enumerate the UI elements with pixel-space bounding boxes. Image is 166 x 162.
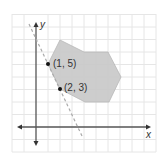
x-axis-left-arrow-icon (17, 125, 22, 130)
coordinate-plane-figure: (1, 5) (2, 3) y x (0, 0, 166, 162)
point-1-5-label: (1, 5) (53, 58, 76, 69)
point-1-5-marker (46, 62, 50, 66)
x-axis-label: x (145, 129, 152, 140)
point-2-3-label: (2, 3) (64, 82, 87, 93)
y-axis-label: y (39, 19, 46, 30)
y-axis-up-arrow-icon (34, 22, 39, 27)
point-2-3-marker (58, 87, 62, 91)
coordinate-plane: (1, 5) (2, 3) y x (0, 0, 166, 162)
y-axis-down-arrow-icon (34, 141, 39, 146)
